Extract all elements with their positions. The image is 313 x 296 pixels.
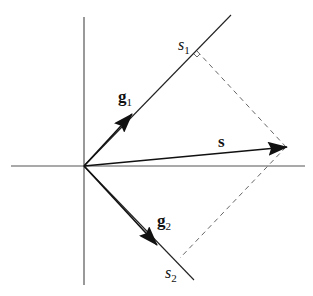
label-g1: g1 xyxy=(118,87,132,108)
projection-dashed-s1 xyxy=(197,51,286,147)
right-angle-tick xyxy=(194,54,200,57)
label-s1: s1 xyxy=(178,36,190,56)
projection-dashed-s2 xyxy=(180,147,286,258)
label-s: s xyxy=(218,132,225,151)
g2-arrow xyxy=(84,166,157,245)
g1-arrow xyxy=(84,114,132,166)
label-s2: s2 xyxy=(165,264,177,284)
s-arrow xyxy=(84,147,287,166)
s1-direction-line xyxy=(84,15,231,166)
vector-diagram: s1 g1 s g2 s2 xyxy=(0,0,313,296)
label-g2: g2 xyxy=(157,211,171,232)
